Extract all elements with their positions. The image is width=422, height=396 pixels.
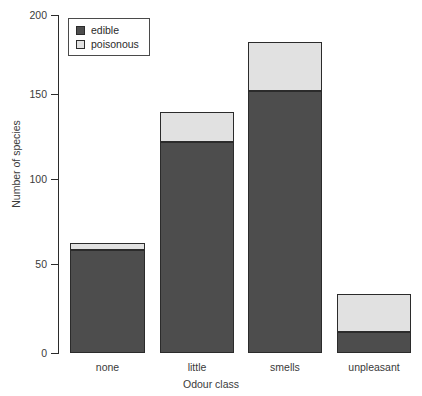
x-tick-label-smells: smells [248,362,322,373]
legend-item-poisonous[interactable]: poisonous [76,37,139,51]
y-axis-title: Number of species [10,84,22,244]
bar-unpleasant[interactable] [337,294,411,353]
bar-little[interactable] [160,112,234,353]
bar-little-poisonous[interactable] [160,112,234,142]
y-tick-0 [51,353,58,354]
y-tick-150 [51,94,58,95]
legend-item-edible[interactable]: edible [76,23,139,37]
bar-smells-edible[interactable] [248,91,322,353]
y-tick-label-0: 0 [6,348,47,359]
plot-area [58,15,418,353]
bar-smells[interactable] [248,42,322,353]
chart-figure: 200 150 100 50 0 Number of species none … [0,0,422,396]
bar-unpleasant-edible[interactable] [337,332,411,353]
bar-none[interactable] [70,243,145,353]
bar-none-poisonous[interactable] [70,243,145,250]
y-tick-50 [51,264,58,265]
x-axis-title: Odour class [0,378,422,390]
x-tick-label-none: none [70,362,145,373]
x-tick-label-unpleasant: unpleasant [337,362,411,373]
y-tick-200 [51,15,58,16]
bar-little-edible[interactable] [160,142,234,353]
legend-label-edible: edible [91,25,119,36]
legend-label-poisonous: poisonous [91,39,139,50]
legend-swatch-poisonous-icon [76,40,85,49]
legend-swatch-edible-icon [76,26,85,35]
x-tick-label-little: little [160,362,234,373]
chart-legend: edible poisonous [68,18,150,56]
bar-unpleasant-poisonous[interactable] [337,294,411,332]
y-tick-label-200: 200 [6,10,47,21]
bar-smells-poisonous[interactable] [248,42,322,91]
y-tick-label-50: 50 [6,259,47,270]
y-tick-100 [51,179,58,180]
bar-none-edible[interactable] [70,250,145,353]
